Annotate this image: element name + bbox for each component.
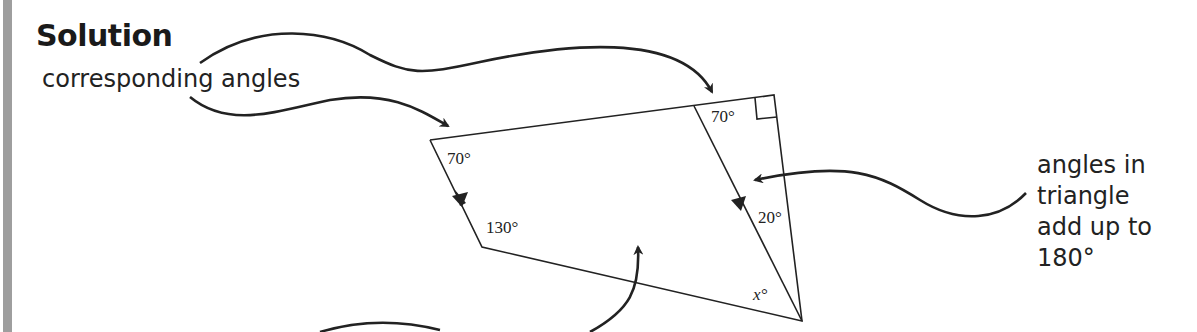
arrow-to-top-inner-angle [200, 33, 712, 92]
arrow-to-triangle [755, 171, 1026, 217]
arrow-to-quadrilateral [320, 247, 638, 332]
diagonal-line [694, 106, 802, 321]
geometry-diagram: 70° 130° 70° 20° x° [0, 0, 1197, 332]
angle-x: x° [752, 285, 768, 304]
angle-right-inner: 20° [758, 208, 782, 227]
parallel-marks [452, 190, 746, 211]
angle-top-left: 70° [447, 149, 471, 168]
angle-top-inner: 70° [711, 107, 735, 126]
angle-bottom-left: 130° [486, 218, 518, 237]
quadrilateral-shape [430, 95, 802, 321]
right-angle-marker [755, 98, 777, 119]
annotation-arrows [190, 33, 1026, 332]
arrow-to-top-left-angle [190, 97, 448, 126]
